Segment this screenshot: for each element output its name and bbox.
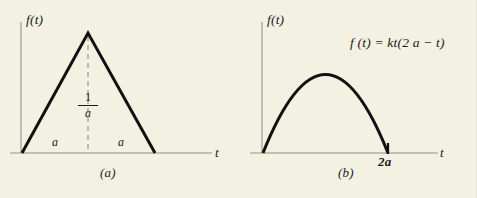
panel-b-x-tick-label: 2a (378, 155, 391, 168)
panel-b-plot (240, 0, 477, 198)
panel-a-right-segment-label: a (118, 136, 124, 148)
panel-a-plot (0, 0, 240, 198)
panel-a-peak-denominator: a (78, 107, 98, 120)
panel-a-caption: (a) (100, 166, 116, 179)
panel-a-peak-numerator: 1 (78, 90, 98, 104)
panel-a-peak-value-label: 1 a (78, 90, 98, 120)
panel-a-y-axis-label: f(t) (26, 13, 43, 27)
panel-b: f(t) t f (t) = kt(2 a − t) 2a (b) (240, 0, 477, 198)
panel-b-y-axis-label: f(t) (267, 13, 284, 27)
panel-b-caption: (b) (338, 166, 354, 179)
panel-b-x-axis-label: t (440, 146, 444, 159)
panel-b-equation-label: f (t) = kt(2 a − t) (350, 36, 445, 50)
panel-a-left-segment-label: a (52, 136, 58, 148)
panel-b-parabola-curve (263, 75, 388, 154)
panel-a: f(t) t 1 a a a (a) (0, 0, 240, 198)
panel-a-x-axis-label: t (215, 146, 219, 159)
figure-container: f(t) t 1 a a a (a) f(t) t f (t) = kt(2 a… (0, 0, 477, 198)
